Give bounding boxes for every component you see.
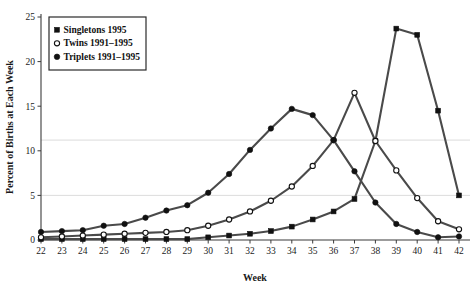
data-point-marker [101,232,106,237]
data-point-marker [122,231,127,236]
data-point-marker [436,219,441,224]
data-point-marker [394,168,399,173]
data-point-marker [436,108,441,113]
x-tick-label: 30 [203,246,213,256]
data-point-marker [310,112,315,117]
data-point-marker [122,221,127,226]
x-tick-label: 34 [287,246,297,256]
data-point-marker [394,221,399,226]
data-point-marker [415,195,420,200]
data-point-marker [38,229,43,234]
data-point-marker [352,90,357,95]
data-point-marker [435,235,440,240]
data-point-marker [415,229,420,234]
y-tick-label: 20 [26,57,36,67]
x-axis-ticks: 2223242526272829303132333435363738394041… [36,240,464,256]
data-point-marker [247,147,252,152]
x-axis-title: Week [243,272,267,283]
y-axis-title: Percent of Births at Each Week [4,60,15,194]
data-point-marker [206,190,211,195]
data-point-marker [80,227,85,232]
data-point-marker [226,171,231,176]
x-tick-label: 24 [78,246,88,256]
data-point-marker [38,235,43,240]
data-point-marker [59,234,64,239]
data-point-marker [59,228,64,233]
data-point-marker [185,203,190,208]
x-tick-label: 31 [224,246,234,256]
x-tick-label: 37 [350,246,360,256]
y-tick-label: 0 [30,235,35,245]
x-tick-label: 41 [433,246,443,256]
data-point-marker [206,223,211,228]
x-tick-label: 42 [454,246,464,256]
chart-container: 0510152025 22232425262728293031323334353… [0,0,475,286]
legend-marker-filled-circle [54,54,60,60]
data-point-marker [373,200,378,205]
data-point-marker [289,224,294,229]
data-point-marker [394,26,399,31]
x-tick-label: 28 [162,246,172,256]
data-point-marker [289,184,294,189]
data-point-marker [456,227,461,232]
data-point-marker [101,223,106,228]
x-tick-label: 40 [412,246,422,256]
y-tick-label: 25 [26,12,36,22]
y-axis-ticks: 0510152025 [26,12,42,245]
series-line [41,93,459,238]
x-tick-label: 27 [141,246,151,256]
data-point-marker [185,237,190,242]
legend-marker-open-circle [54,41,59,46]
x-tick-label: 29 [183,246,193,256]
data-point-marker [331,137,336,142]
x-tick-label: 36 [329,246,339,256]
x-tick-label: 26 [120,246,130,256]
x-tick-label: 35 [308,246,318,256]
data-point-marker [247,209,252,214]
data-point-marker [248,231,253,236]
data-point-marker [143,215,148,220]
data-point-marker [415,32,420,37]
x-tick-label: 39 [392,246,402,256]
data-point-marker [80,233,85,238]
y-tick-label: 15 [26,102,36,112]
gridlines [41,140,470,195]
x-tick-label: 25 [99,246,109,256]
data-point-marker [227,217,232,222]
data-point-marker [143,230,148,235]
data-point-marker [310,163,315,168]
data-point-marker [289,106,294,111]
data-point-marker [143,237,148,242]
data-point-marker [268,198,273,203]
legend-label: Twins 1991–1995 [64,38,133,48]
y-tick-label: 5 [30,191,35,201]
data-point-marker [352,197,357,202]
x-tick-label: 32 [245,246,255,256]
data-point-marker [122,237,127,242]
data-point-marker [206,235,211,240]
data-point-marker [185,228,190,233]
data-point-marker [352,169,357,174]
data-point-marker [268,126,273,131]
data-point-marker [373,138,378,143]
legend-marker-filled-square [55,27,60,32]
x-tick-label: 22 [36,246,46,256]
legend-label: Triplets 1991–1995 [64,52,141,62]
data-point-marker [456,234,461,239]
y-tick-label: 10 [26,146,36,156]
data-point-marker [310,217,315,222]
data-point-marker [164,229,169,234]
data-point-marker [331,209,336,214]
data-point-marker [269,229,274,234]
legend-label: Singletons 1995 [64,25,127,35]
data-point-marker [457,193,462,198]
x-tick-label: 33 [266,246,276,256]
births-by-week-line-chart: 0510152025 22232425262728293031323334353… [0,0,475,286]
data-point-marker [227,233,232,238]
data-point-marker [164,237,169,242]
x-tick-label: 38 [371,246,381,256]
chart-legend: Singletons 1995Twins 1991–1995Triplets 1… [49,17,146,70]
x-tick-label: 23 [57,246,67,256]
data-point-marker [164,208,169,213]
series-2 [38,90,461,240]
